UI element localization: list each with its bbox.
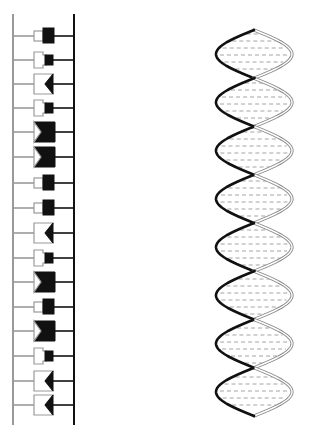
helix-strand-dark: [216, 271, 255, 320]
base-pair: [13, 74, 74, 94]
base-left: [34, 348, 46, 364]
base-pair: [13, 371, 74, 391]
helix-strand-dark: [216, 30, 254, 78]
base-right: [45, 253, 53, 263]
dna-diagram: [0, 0, 312, 437]
base-pair: [13, 147, 74, 167]
base-right: [43, 28, 54, 43]
base-pair: [13, 28, 74, 43]
helix-strand-dark: [216, 127, 255, 175]
base-pair: [13, 250, 74, 266]
base-left: [34, 31, 43, 41]
base-pair: [13, 348, 74, 364]
base-right: [45, 55, 53, 65]
base-pair: [13, 175, 74, 190]
base-left: [34, 203, 43, 213]
base-left: [34, 178, 43, 188]
dna-ladder-schematic: [13, 14, 74, 425]
base-right: [43, 299, 54, 314]
helix-strand-dark: [216, 368, 254, 416]
base-pair: [13, 299, 74, 314]
dna-double-helix: [216, 30, 292, 416]
base-pair: [13, 100, 74, 116]
base-pair: [13, 272, 74, 292]
base-right: [43, 175, 54, 190]
base-pair: [13, 321, 74, 341]
base-right: [43, 200, 54, 215]
base-pair: [13, 122, 74, 142]
base-right: [45, 103, 53, 113]
base-left: [34, 52, 46, 68]
base-left: [34, 302, 43, 312]
helix-strand-dark: [216, 78, 255, 127]
base-pair: [13, 200, 74, 215]
base-left: [34, 100, 46, 116]
base-pair: [13, 52, 74, 68]
base-right: [45, 351, 53, 361]
base-pair: [13, 223, 74, 243]
base-pair: [13, 395, 74, 415]
base-left: [34, 250, 46, 266]
helix-strand-dark: [216, 320, 255, 368]
